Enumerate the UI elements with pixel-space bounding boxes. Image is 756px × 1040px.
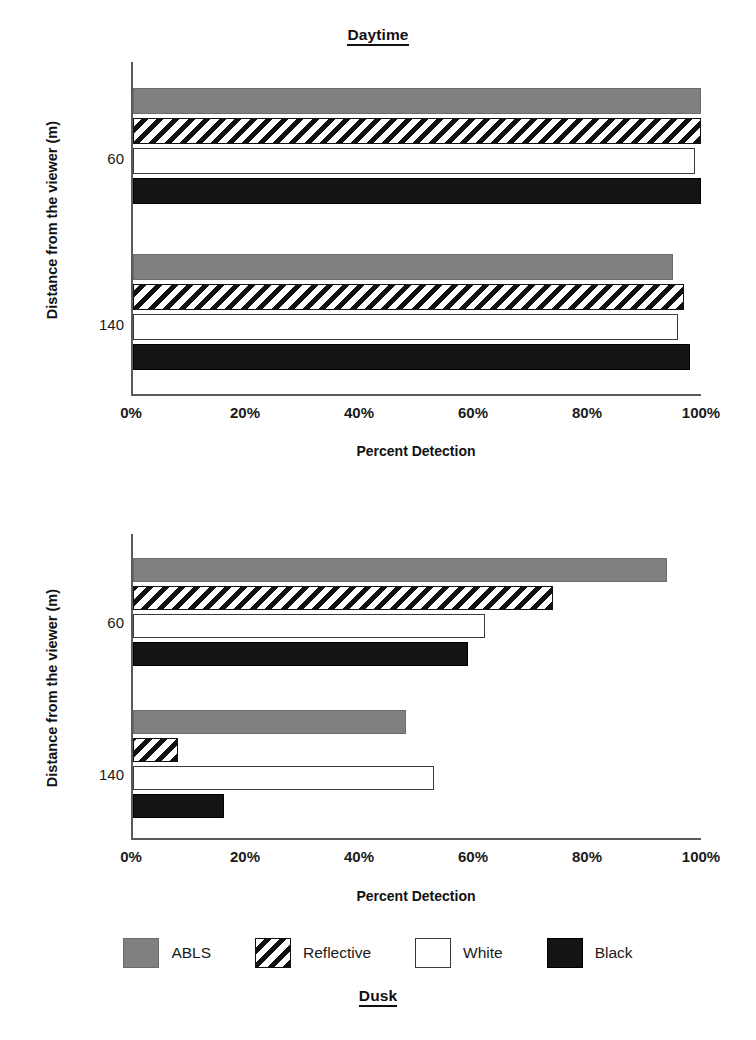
x-axis-title-daytime: Percent Detection (131, 443, 701, 459)
x-tick-label-dusk-20: 20% (230, 848, 260, 865)
bar-daytime-140-black (133, 344, 690, 370)
x-tick-label-daytime-40: 40% (344, 404, 374, 421)
x-axis-ticks-dusk: 0% 20% 40% 60% 80% 100% (131, 848, 701, 870)
bar-daytime-140-white (133, 314, 678, 340)
legend-swatch-abls-icon (123, 938, 159, 968)
x-tick-label-daytime-80: 80% (572, 404, 602, 421)
bar-dusk-60-black (133, 642, 468, 666)
bar-dusk-60-abls (133, 558, 667, 582)
x-tick-label-dusk-40: 40% (344, 848, 374, 865)
bar-dusk-140-white (133, 766, 434, 790)
legend-item-reflective: Reflective (255, 938, 371, 968)
chart-title-daytime: Daytime (0, 26, 756, 44)
x-tick-label-daytime-100: 100% (682, 404, 720, 421)
legend-label-black: Black (595, 944, 633, 962)
legend-item-white: White (415, 938, 503, 968)
legend-item-black: Black (547, 938, 633, 968)
figure-root: Daytime Distance from the viewer (m) 60 … (0, 0, 756, 1040)
x-tick-label-dusk-0: 0% (120, 848, 142, 865)
x-tick-label-daytime-60: 60% (458, 404, 488, 421)
plot-area-dusk (131, 534, 701, 840)
chart-title-daytime-text: Daytime (347, 26, 408, 46)
y-axis-ticks-daytime: 60 140 (56, 62, 124, 396)
legend-label-reflective: Reflective (303, 944, 371, 962)
x-axis-ticks-daytime: 0% 20% 40% 60% 80% 100% (131, 404, 701, 426)
bar-dusk-140-abls (133, 710, 406, 734)
legend-label-white: White (463, 944, 503, 962)
bar-daytime-140-abls (133, 254, 673, 280)
bar-daytime-140-reflective (133, 284, 684, 310)
x-tick-label-dusk-80: 80% (572, 848, 602, 865)
bar-daytime-60-abls (133, 88, 701, 114)
plot-area-daytime (131, 62, 701, 396)
y-axis-ticks-dusk: 60 140 (56, 534, 124, 840)
bar-dusk-140-black (133, 794, 224, 818)
bar-daytime-60-reflective (133, 118, 701, 144)
legend-item-abls: ABLS (123, 938, 211, 968)
x-tick-label-daytime-20: 20% (230, 404, 260, 421)
y-tick-label-daytime-140: 140 (64, 316, 124, 333)
y-tick-label-daytime-60: 60 (64, 150, 124, 167)
y-tick-label-dusk-60: 60 (64, 614, 124, 631)
x-axis-title-dusk: Percent Detection (131, 888, 701, 904)
y-tick-label-dusk-140: 140 (64, 766, 124, 783)
legend-label-abls: ABLS (171, 944, 211, 962)
chart-legend: ABLS Reflective White Black (0, 938, 756, 968)
legend-swatch-reflective-icon (255, 938, 291, 968)
bar-daytime-60-black (133, 178, 701, 204)
legend-swatch-black-icon (547, 938, 583, 968)
x-tick-label-dusk-60: 60% (458, 848, 488, 865)
legend-swatch-white-icon (415, 938, 451, 968)
bar-dusk-60-reflective (133, 586, 553, 610)
chart-title-dusk-text: Dusk (359, 987, 397, 1007)
chart-title-dusk: Dusk (0, 987, 756, 1005)
bar-daytime-60-white (133, 148, 695, 174)
bar-dusk-140-reflective (133, 738, 178, 762)
bar-dusk-60-white (133, 614, 485, 638)
x-tick-label-daytime-0: 0% (120, 404, 142, 421)
x-tick-label-dusk-100: 100% (682, 848, 720, 865)
